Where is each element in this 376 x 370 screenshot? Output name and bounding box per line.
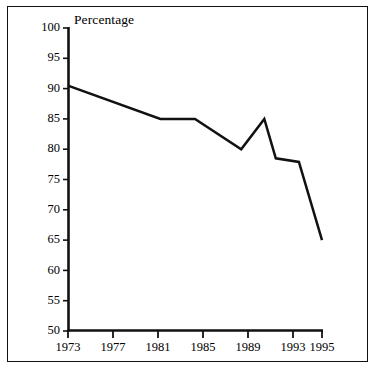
y-tick-label-80: 80: [30, 142, 60, 155]
y-tick-label-100: 100: [30, 21, 60, 34]
x-tick-label-1989: 1989: [226, 341, 270, 354]
y-tick-label-55: 55: [30, 294, 60, 307]
x-tick-label-1995: 1995: [300, 341, 344, 354]
y-tick-label-75: 75: [30, 173, 60, 186]
x-tick-label-1977: 1977: [91, 341, 135, 354]
y-tick-label-50: 50: [30, 324, 60, 337]
y-tick-label-70: 70: [30, 203, 60, 216]
x-tick-label-1985: 1985: [181, 341, 225, 354]
y-tick-label-65: 65: [30, 233, 60, 246]
y-tick-label-85: 85: [30, 112, 60, 125]
y-tick-label-60: 60: [30, 264, 60, 277]
chart-figure: Percentage 100 95 90 85 80 75 70 65 60 5…: [0, 0, 376, 370]
chart-title: Percentage: [74, 12, 134, 27]
y-tick-label-90: 90: [30, 82, 60, 95]
x-axis-ticks: [68, 331, 322, 338]
x-tick-label-1973: 1973: [46, 341, 90, 354]
y-tick-label-95: 95: [30, 51, 60, 64]
data-line-percentage: [68, 86, 322, 241]
x-tick-label-1981: 1981: [136, 341, 180, 354]
